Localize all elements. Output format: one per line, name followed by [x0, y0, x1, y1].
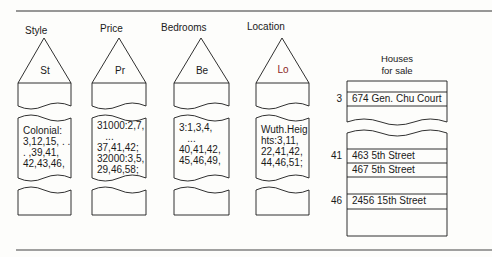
houses-title: Houses for sale: [367, 53, 427, 77]
house-row-num: 46: [322, 195, 342, 206]
abbr-location: Lo: [268, 64, 298, 75]
entries-price: 31000:2,7, ... 37,41,42; 32000:3,5, 29,4…: [97, 120, 144, 175]
column-label-style: Style: [25, 25, 47, 36]
abbr-bedrooms: Be: [187, 65, 217, 76]
abbr-price: Pr: [105, 65, 135, 76]
column-label-bedrooms: Bedrooms: [161, 22, 207, 33]
house-row-address: 2456 15th Street: [352, 195, 426, 206]
abbr-style: St: [30, 65, 60, 76]
house-row-num: 41: [322, 150, 342, 161]
column-label-location: Location: [247, 21, 285, 32]
house-row-address: 463 5th Street: [352, 150, 415, 161]
houses-title-line1: Houses: [367, 53, 427, 65]
column-label-price: Price: [100, 23, 123, 34]
house-row-address: 674 Gen. Chu Court: [352, 93, 442, 104]
houses-title-line2: for sale: [367, 65, 427, 77]
house-row-address: 467 5th Street: [352, 164, 415, 175]
entries-location: Wuth.Heig hts:3,11, 22,41,42, 44,46,51;: [261, 124, 308, 168]
entries-bedrooms: 3:1,3,4, ... 40,41,42, 45,46,49,: [179, 122, 221, 166]
entries-style: Colonial: 3,12,15, . . . ,39,41, 42,43,4…: [23, 125, 70, 169]
diagram-lines: [0, 0, 492, 257]
house-row-num: 3: [322, 93, 342, 104]
